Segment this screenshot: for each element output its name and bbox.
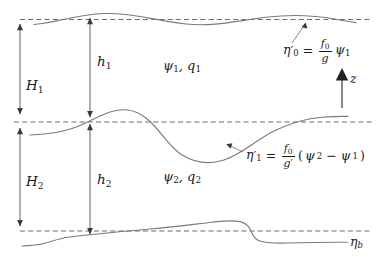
label-lower-layer-fields: ψ2, q2 <box>163 170 201 185</box>
label-H1: H1 <box>26 79 44 94</box>
label-h1-symbol: h <box>97 53 106 69</box>
label-upper-layer-fields: ψ1, q1 <box>163 59 201 74</box>
eta0-rhs-symbol: ψ <box>335 42 345 57</box>
eta1-term2-symbol: ψ <box>341 150 351 163</box>
label-H2-subscript: 2 <box>38 180 44 191</box>
bottom-topography-curve <box>22 221 340 246</box>
label-h1-subscript: 1 <box>106 60 112 71</box>
label-H2: H2 <box>26 175 44 190</box>
equation-interface: η′1 = f0 g′ (ψ2−ψ1) <box>246 143 365 169</box>
eta0-numerator-subscript: 0 <box>325 42 330 51</box>
eta1-equals: = <box>266 150 276 163</box>
eta1-close-paren: ) <box>360 150 365 163</box>
label-H1-symbol: H <box>26 77 38 93</box>
eta1-open-paren: ( <box>298 150 303 163</box>
label-eta-b: ηb <box>350 236 363 250</box>
label-h2-subscript: 2 <box>106 178 112 189</box>
eta1-denominator-group: g′ <box>282 157 293 169</box>
eta1-minus: − <box>326 150 336 163</box>
equation-free-surface: η′0 = f0 g ψ1 <box>283 38 350 64</box>
upper-layer-separator: , <box>179 58 187 73</box>
eta1-term1-subscript: 2 <box>317 152 322 161</box>
eta1-denominator-prime: ′ <box>290 157 292 169</box>
label-z-axis: z <box>350 73 357 86</box>
eta1-numerator-subscript: 0 <box>288 147 293 156</box>
z-axis-arrowhead <box>336 68 348 81</box>
eta0-denominator: g <box>321 52 330 64</box>
label-h2-symbol: h <box>97 171 106 187</box>
eta1-group: η′1 <box>246 149 262 163</box>
eta1-term1-symbol: ψ <box>305 150 315 163</box>
eta1-fraction: f0 g′ <box>282 143 295 169</box>
eta1-term2-subscript: 1 <box>353 152 358 161</box>
eta-b-symbol: η <box>350 234 358 249</box>
eta-b-subscript: b <box>358 240 363 250</box>
eta0-group: η′0 <box>283 44 299 58</box>
upper-streamfunction-symbol: ψ <box>163 58 173 73</box>
eta0-symbol: η <box>283 42 291 57</box>
label-h1: h1 <box>97 55 112 70</box>
eta0-subscript: 0 <box>293 48 298 58</box>
two-layer-ocean-diagram: H1 H2 h1 h2 ψ1, q1 ψ2, q2 η′0 = f0 g ψ1 … <box>0 0 380 257</box>
lower-pv-subscript: 2 <box>195 175 201 185</box>
eta0-rhs-group: ψ1 <box>335 44 350 58</box>
label-H2-symbol: H <box>26 173 38 189</box>
pointer-interface-head <box>226 143 232 149</box>
eta0-fraction: f0 g <box>319 38 332 64</box>
eta1-subscript: 1 <box>256 153 261 163</box>
lower-layer-separator: , <box>179 169 187 184</box>
eta0-rhs-subscript: 1 <box>345 48 350 58</box>
eta0-numerator-group: f0 <box>320 38 331 51</box>
eta1-symbol: η <box>246 147 254 162</box>
eta1-numerator-group: f0 <box>283 143 294 156</box>
label-h2: h2 <box>97 173 112 188</box>
label-H1-subscript: 1 <box>38 84 44 95</box>
upper-pv-subscript: 1 <box>195 64 201 74</box>
eta0-equals: = <box>303 45 313 58</box>
lower-streamfunction-symbol: ψ <box>163 169 173 184</box>
